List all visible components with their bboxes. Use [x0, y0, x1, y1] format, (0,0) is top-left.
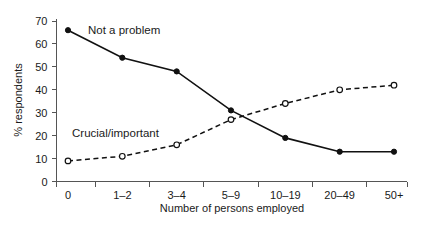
y-tick-label: 50 [35, 61, 47, 73]
series-layer [65, 28, 397, 164]
x-tick-label: 50+ [385, 189, 404, 201]
x-tick-label: 20–49 [324, 189, 355, 201]
x-tick-label: 10–19 [270, 189, 301, 201]
x-tick-label: 5–9 [222, 189, 240, 201]
data-point-marker [283, 135, 288, 140]
series-label-crucial-important: Crucial/important [72, 127, 160, 139]
x-tick-label: 1–2 [113, 189, 131, 201]
data-point-marker [391, 82, 397, 88]
y-tick-label: 40 [35, 84, 47, 96]
y-tick-label: 0 [41, 176, 47, 188]
line-chart: 010203040506070 01–23–45–910–1920–4950+ … [0, 0, 429, 226]
chart-container: 010203040506070 01–23–45–910–1920–4950+ … [0, 0, 429, 226]
data-point-marker [228, 117, 234, 123]
y-axis-ticks: 010203040506070 [35, 15, 56, 188]
data-point-marker [65, 28, 70, 33]
data-point-marker [228, 108, 233, 113]
series-label-not-a-problem: Not a problem [88, 24, 160, 36]
x-axis-ticks: 01–23–45–910–1920–4950+ [57, 182, 408, 201]
data-point-marker [120, 154, 126, 160]
data-point-marker [174, 142, 180, 148]
y-axis-title: % respondents [12, 63, 24, 137]
data-point-marker [174, 69, 179, 74]
data-point-marker [65, 158, 71, 164]
data-point-marker [337, 87, 343, 93]
x-tick-label: 0 [65, 189, 71, 201]
y-tick-label: 10 [35, 153, 47, 165]
series-line-2 [68, 85, 394, 161]
x-axis-title: Number of persons employed [160, 202, 304, 214]
y-tick-label: 70 [35, 15, 47, 27]
data-point-marker [120, 55, 125, 60]
x-tick-label: 3–4 [167, 189, 185, 201]
y-tick-label: 20 [35, 130, 47, 142]
y-tick-label: 30 [35, 107, 47, 119]
data-point-marker [391, 149, 396, 154]
y-tick-label: 60 [35, 38, 47, 50]
data-point-marker [337, 149, 342, 154]
data-point-marker [283, 101, 289, 107]
